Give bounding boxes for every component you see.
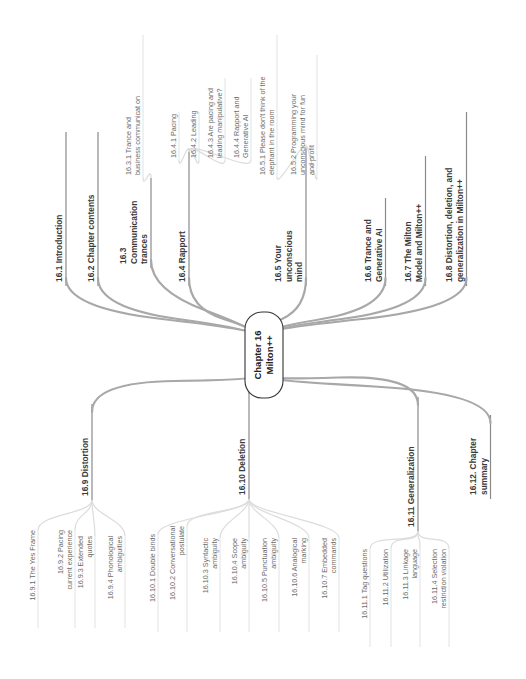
branch-16-5-label-line-2: unconscious (284, 230, 294, 282)
branch-16-2-label-line-1: 16.2 Chapter contents (86, 194, 96, 282)
branch-16-10-label-line-1: 16.10 Deletion (237, 439, 247, 495)
central-topic: Chapter 16 Milton++ (245, 312, 283, 398)
branch-16-1-label-line-1: 16.1 Introduction (54, 215, 64, 282)
branch-16-6-label-line-2: Generative AI (374, 228, 384, 282)
branch-16-3-sub-1-connector (143, 174, 151, 181)
branch-16-4-sub-4-label-line-1: 16.4.4 Rapport and (232, 96, 241, 158)
central-topic-line-1: Chapter 16 (252, 330, 263, 379)
branch-16-12-label-line-2: summary (479, 457, 489, 495)
branch-16-5-sub-1-label-line-2: elephant in the room (267, 109, 276, 175)
branch-16-2-connector (98, 278, 258, 336)
branch-16-9-sub-4-label-line-2: ambiguities (115, 536, 124, 573)
branch-16-4-sub-1-label-line-1: 16.4.1 Pacing (169, 114, 178, 158)
branch-16-9-sub-4-label-line-1: 16.9.4 Phonological (106, 536, 115, 600)
branch-16-10-sub-1-label-line-1: 16.10.1 Double binds (148, 534, 157, 602)
branch-16-11-sub-1-connector (370, 531, 418, 549)
branch-16-10-sub-5-label-line-2: ambiguity (269, 538, 278, 569)
branch-16-10-sub-4-label-line-2: ambiguity (239, 538, 248, 569)
branch-16-9-sub-3-label-line-2: quotes (85, 536, 94, 558)
branch-16-4-sub-4-label-line-2: Generative AI (241, 114, 250, 158)
branch-16-11-sub-4-label-line-1: 16.11.4 Selection (430, 549, 439, 604)
branch-16-3-label-line-1: 16.3 (118, 247, 128, 264)
branch-16-12-label-line-1: 16.12. Chapter (468, 437, 478, 495)
branch-16-6-label-line-1: 16.6 Trance and (363, 219, 373, 282)
branch-16-9-connector (92, 376, 258, 412)
branch-16-9-sub-4-connector (92, 500, 125, 536)
branch-16-11-sub-2-label-line-1: 16.11.2 Utilization (381, 549, 390, 606)
branch-16-3-sub-1-label-line-1: 16.3.1 Trance and (124, 117, 133, 175)
branch-16-3-label-line-2: Communication (129, 201, 139, 264)
branch-16-5-sub-2-label-line-2: unconscious mind for fun (298, 95, 307, 175)
branch-16-11-sub-1-label-line-1: 16.11.1 Tag questions (360, 549, 369, 619)
branch-16-8-label-line-1: 16.8 Distortion, deletion, and (444, 168, 454, 282)
branch-16-10-sub-5-label-line-1: 16.10.5 Punctuation (260, 538, 269, 602)
branch-16-4-sub-2-label-line-1: 16.4.2 Leading (189, 110, 198, 158)
branch-16-10-sub-3-label-line-2: ambiguity (210, 538, 219, 569)
branch-16-3-sub-1-label-line-2: business communicat on (133, 96, 142, 175)
branch-16-10-sub-7-label-line-1: 16.10.7 Embedded (320, 538, 329, 599)
branch-16-4-sub-1-connector (179, 149, 189, 164)
central-topic-line-2: Milton++ (264, 335, 275, 375)
branch-16-10-sub-6-label-line-2: marking (299, 538, 308, 564)
branch-16-5-sub-1-label-line-1: 16.5.1 Please don't think of the (258, 77, 267, 175)
branch-16-10-sub-2-label-line-1: 16.10.2 Conversational (168, 526, 177, 600)
branch-16-10-sub-4-label-line-1: 16.10.4 Scope (230, 538, 239, 584)
branch-16-11-sub-3-label-line-1: 16.11.3 Linkage (401, 549, 410, 600)
branch-16-9-sub-3-label-line-1: 16.9.3 Extended (76, 536, 85, 588)
branch-16-10-sub-6-label-line-1: 16.10.6 Analogical (290, 538, 299, 597)
branch-16-5-label-line-1: 16.5 Your (273, 244, 283, 282)
branch-16-3-label-line-3: trances (139, 234, 149, 264)
branch-16-4-sub-3-label-line-1: 16.4.3 Are pacing and (206, 88, 215, 158)
branch-16-10-sub-7-connector (249, 499, 339, 538)
branch-16-10-sub-2-label-line-2: postulate (177, 526, 186, 555)
branch-16-8-label-line-2: generalization in Milton++ (455, 179, 465, 282)
branch-16-5-sub-2-label-line-3: and profit (307, 145, 316, 175)
branch-16-9-sub-2-label-line-2: current experience (65, 530, 74, 590)
mind-map: 16.1 Introduction16.2 Chapter contents16… (0, 0, 526, 679)
branch-16-10-sub-6-connector (249, 499, 309, 538)
branch-16-9-sub-1-connector (38, 500, 92, 530)
branch-16-9-sub-2-label-line-1: 16.9.2 Pacing (56, 530, 65, 574)
branch-16-9-sub-1-label-line-1: 16.9.1 The Yes Frame (28, 530, 37, 601)
branch-16-11-sub-4-connector (418, 531, 449, 549)
branch-16-11-sub-2-connector (391, 531, 418, 549)
branch-16-11-label-line-1: 16.11 Generalization (406, 446, 416, 527)
branch-16-7-label-line-1: 16.7 The Milton (403, 222, 413, 283)
branch-16-5-label-line-3: mind (294, 262, 304, 282)
branch-16-4-label-line-1: 16.4 Rapport (177, 231, 187, 282)
branch-16-12-connector (258, 376, 491, 423)
branch-16-5-sub-2-label-line-1: 16.5.2 Programming your (289, 93, 298, 175)
branch-16-7-label-line-2: Model and Milton++ (414, 204, 424, 282)
branch-16-11-sub-3-label-line-2: language (410, 549, 419, 579)
branch-16-11-sub-4-label-line-2: restriction violation (439, 549, 448, 609)
branch-16-9-label-line-1: 16.9 Distortion (80, 438, 90, 496)
branch-16-10-sub-3-label-line-1: 16.10.3 Syntactic (201, 538, 210, 594)
branch-16-4-sub-3-label-line-2: leading manipulative? (215, 88, 224, 158)
branch-16-10-sub-7-label-line-2: commands (329, 538, 338, 574)
